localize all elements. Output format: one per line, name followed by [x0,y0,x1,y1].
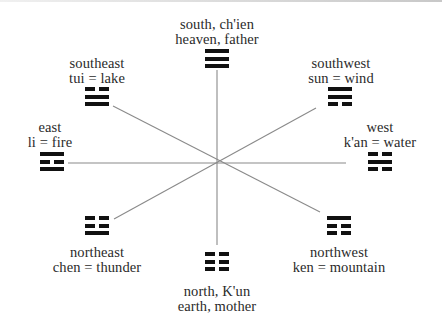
trigram-heaven-icon [205,49,229,72]
trigram-wind-icon [328,87,352,110]
label-southeast-line1: southeast [69,56,125,71]
label-north-line2: earth, mother [178,299,257,314]
label-southeast-line2: tui = lake [69,71,125,86]
label-northeast: northeast chen = thunder [53,245,142,275]
trigram-water-icon [368,152,392,175]
label-northwest: northwest ken = mountain [293,245,386,275]
trigram-mountain-icon [327,216,351,239]
label-south: south, ch'ien heaven, father [175,17,259,47]
label-south-line1: south, ch'ien [175,17,259,32]
trigram-earth-icon [205,252,229,275]
label-northeast-line1: northeast [53,245,142,260]
label-north: north, K'un earth, mother [178,284,257,314]
label-southwest: southwest sun = wind [308,56,374,86]
label-north-line1: north, K'un [178,284,257,299]
label-west: west k'an = water [344,120,416,150]
label-southwest-line1: southwest [308,56,374,71]
label-east: east li = fire [28,120,73,150]
label-east-line2: li = fire [28,135,73,150]
label-southeast: southeast tui = lake [69,56,125,86]
trigram-lake-icon [85,87,109,110]
label-northwest-line1: northwest [293,245,386,260]
trigram-fire-icon [40,152,64,175]
label-east-line1: east [28,120,73,135]
label-southwest-line2: sun = wind [308,71,374,86]
label-northwest-line2: ken = mountain [293,260,386,275]
trigram-thunder-icon [85,216,109,239]
label-west-line2: k'an = water [344,135,416,150]
label-south-line2: heaven, father [175,32,259,47]
label-northeast-line2: chen = thunder [53,260,142,275]
label-west-line1: west [344,120,416,135]
